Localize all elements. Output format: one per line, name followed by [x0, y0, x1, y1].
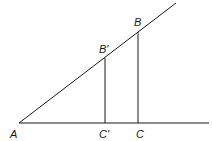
hypotenuse-ray — [19, 3, 176, 123]
label-a: A — [9, 128, 17, 140]
label-c-prime: C' — [99, 128, 110, 140]
label-b: B — [134, 16, 141, 28]
label-c: C — [136, 128, 144, 140]
similar-triangles-diagram: B B' A C' C — [0, 0, 212, 141]
label-b-prime: B' — [99, 43, 109, 55]
